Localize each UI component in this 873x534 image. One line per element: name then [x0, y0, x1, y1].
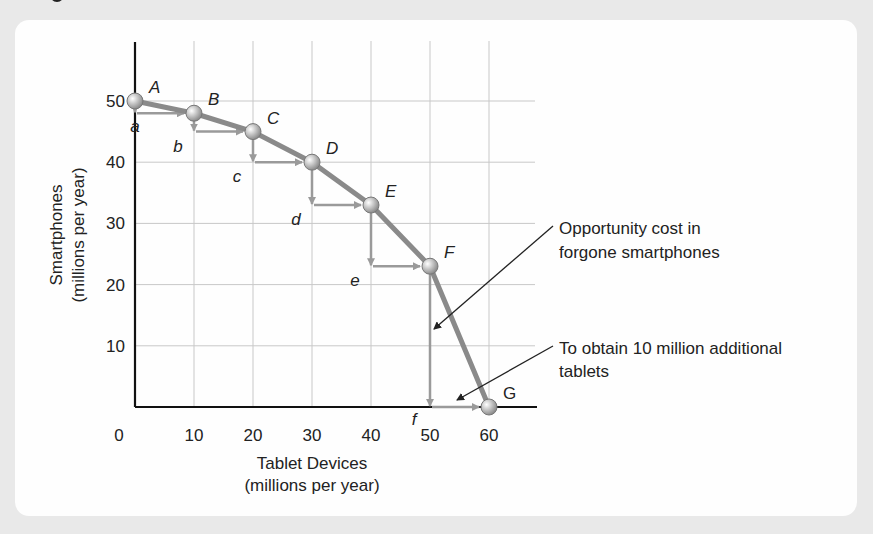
step-label: d [291, 210, 301, 229]
step-label: a [130, 117, 139, 136]
x-axis-title: Tablet Devices [257, 454, 368, 473]
annotation-opportunity-cost-line2: forgone smartphones [559, 243, 720, 262]
point-label: F [444, 243, 456, 262]
y-tick-label: 30 [106, 214, 125, 233]
step-label: b [173, 137, 182, 156]
x-tick-label: 30 [303, 426, 322, 445]
step-label: e [350, 271, 359, 290]
ppc-chart: 01020304050601020304050Tablet Devices(mi… [0, 0, 873, 534]
point-C [245, 124, 261, 140]
annotation-additional-tablets: To obtain 10 million additional [559, 339, 782, 358]
step-label: c [233, 167, 242, 186]
y-tick-label: 40 [106, 153, 125, 172]
y-axis-title: Smartphones [47, 184, 66, 285]
point-D [304, 154, 320, 170]
point-label: C [267, 109, 280, 128]
x-axis-subtitle: (millions per year) [244, 476, 379, 495]
point-G [481, 399, 497, 415]
x-tick-label: 40 [362, 426, 381, 445]
point-B [186, 105, 202, 121]
point-A [127, 93, 143, 109]
point-label: E [385, 182, 397, 201]
y-axis-subtitle: (millions per year) [69, 167, 88, 302]
point-E [363, 197, 379, 213]
x-tick-label: 10 [185, 426, 204, 445]
annotation-additional-tablets-line2: tablets [559, 362, 609, 381]
point-label: A [148, 78, 160, 97]
y-tick-label: 50 [106, 92, 125, 111]
point-label: B [208, 90, 219, 109]
x-tick-label: 50 [421, 426, 440, 445]
y-tick-label: 20 [106, 276, 125, 295]
x-tick-label: 20 [244, 426, 263, 445]
annotation-leader-opportunity-cost [434, 226, 553, 329]
point-label: G [503, 384, 516, 403]
x-tick-label: 0 [114, 426, 123, 445]
step-label: f [412, 410, 419, 429]
x-tick-label: 60 [480, 426, 499, 445]
point-F [422, 258, 438, 274]
y-tick-label: 10 [106, 337, 125, 356]
point-label: D [326, 139, 338, 158]
annotation-opportunity-cost: Opportunity cost in [559, 219, 701, 238]
